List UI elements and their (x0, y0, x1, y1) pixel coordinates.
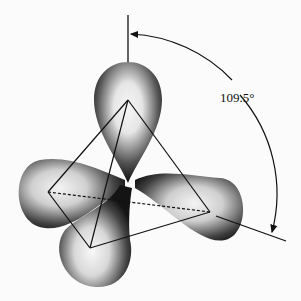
orbital-svg (0, 0, 301, 301)
top-lobe (94, 62, 162, 183)
angle-arc (240, 95, 277, 232)
angle-label: 109.5° (220, 90, 254, 106)
sp3-orbital-diagram: 109.5° (0, 0, 301, 301)
